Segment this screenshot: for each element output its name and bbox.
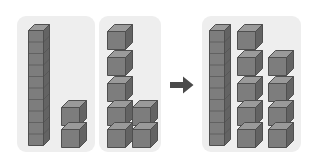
ten-rod	[209, 24, 231, 146]
unit-cube	[107, 76, 133, 102]
unit-cube	[237, 50, 263, 76]
panel-first-addend	[17, 16, 95, 152]
unit-cube	[268, 122, 294, 148]
unit-cube	[268, 50, 294, 76]
unit-cube	[107, 122, 133, 148]
unit-cube	[237, 76, 263, 102]
unit-cube	[237, 24, 263, 50]
panel-sum	[202, 16, 301, 152]
unit-cube	[107, 50, 133, 76]
unit-cube	[107, 24, 133, 50]
unit-cube	[61, 122, 87, 148]
illustration-canvas	[0, 0, 315, 168]
unit-cube	[132, 122, 158, 148]
ten-rod	[28, 24, 50, 146]
panel-second-addend	[99, 16, 161, 152]
unit-cube	[237, 122, 263, 148]
unit-cube	[268, 76, 294, 102]
arrow-right-icon	[170, 76, 194, 94]
